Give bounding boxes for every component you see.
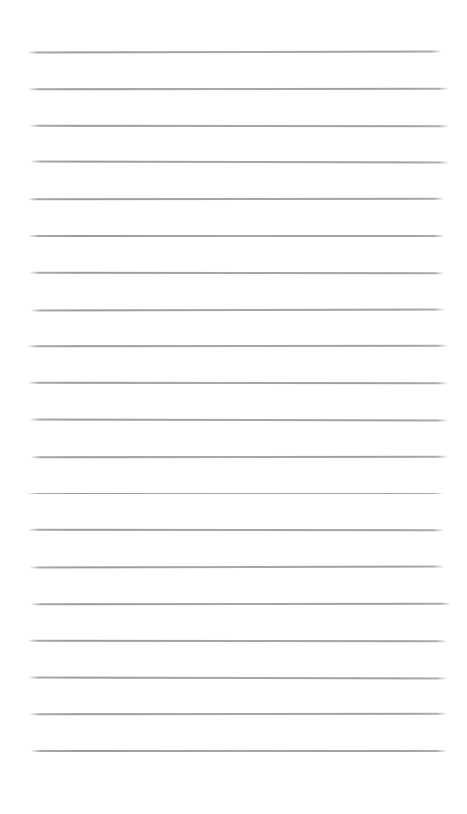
ruled-line [28, 529, 444, 531]
ruled-line [29, 566, 444, 568]
ruled-line [29, 713, 447, 715]
ruled-line [30, 750, 447, 752]
ruled-line [27, 51, 442, 53]
ruled-lines-container [0, 0, 467, 814]
ruled-line [30, 308, 445, 310]
ruled-line [29, 124, 449, 126]
ruled-line [30, 603, 451, 605]
ruled-line [29, 272, 445, 274]
ruled-line [28, 88, 449, 90]
ruled-line [27, 198, 445, 200]
ruled-line [30, 456, 448, 458]
ruled-line [27, 345, 448, 347]
ruled-line [28, 676, 447, 678]
ruled-line [28, 382, 448, 384]
ruled-line [27, 640, 447, 642]
ruled-line [29, 419, 448, 421]
lined-paper-page [0, 0, 467, 814]
ruled-line [27, 493, 444, 495]
ruled-line [30, 161, 449, 163]
ruled-line [28, 235, 445, 237]
